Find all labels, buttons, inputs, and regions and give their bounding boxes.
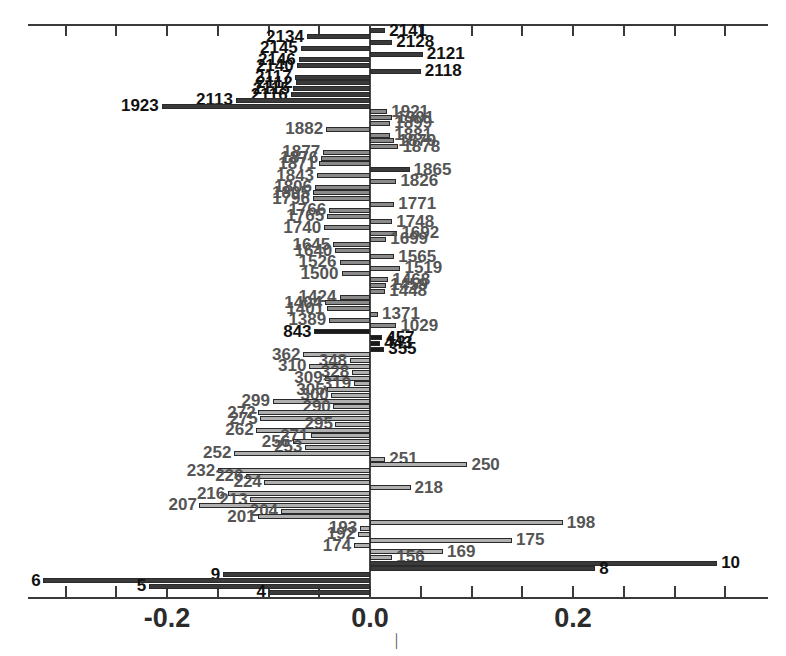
bar <box>223 572 370 577</box>
bar-value-label: 224 <box>233 473 261 490</box>
bar-value-label: 175 <box>516 531 544 548</box>
bar-value-label: 5 <box>137 577 146 594</box>
axis-tick-bottom <box>724 586 726 597</box>
bar <box>335 248 370 253</box>
bar <box>327 387 370 392</box>
bar <box>291 92 370 97</box>
bar <box>358 532 370 537</box>
bar <box>370 121 390 126</box>
bar <box>370 237 386 242</box>
bar-value-label: 10 <box>721 554 740 571</box>
bar <box>370 277 388 282</box>
bar <box>370 538 512 543</box>
bar-value-label: 1882 <box>285 120 323 137</box>
bar <box>370 254 394 259</box>
bar-value-label: 6 <box>31 572 40 589</box>
bar <box>370 144 398 149</box>
bar <box>370 115 392 120</box>
bar <box>370 462 467 467</box>
bar <box>354 543 370 548</box>
bar-value-label: 1740 <box>283 219 321 236</box>
bar <box>370 566 595 571</box>
bar <box>370 40 392 45</box>
bar-value-label: 169 <box>447 543 475 560</box>
bar-value-label: 262 <box>225 421 253 438</box>
axis-tick-top <box>572 26 574 36</box>
bar <box>162 104 370 109</box>
bar <box>327 306 370 311</box>
axis-tick-bottom <box>471 586 473 597</box>
bar-value-label: 198 <box>567 514 595 531</box>
bar-chart: -0.20.00.2214121342128214521212146214021… <box>0 0 786 656</box>
bar <box>246 474 370 479</box>
bar <box>331 393 370 398</box>
bar-value-label: 207 <box>168 496 196 513</box>
bar <box>370 289 385 294</box>
axis-tick-top <box>166 26 168 36</box>
bar <box>293 86 370 91</box>
bar <box>342 271 370 276</box>
bar-value-label: 252 <box>203 444 231 461</box>
axis-caret-mark: │ <box>393 633 401 648</box>
bar <box>305 445 370 450</box>
bar <box>370 312 378 317</box>
bar <box>354 381 370 386</box>
bar-value-label: 2121 <box>427 45 465 62</box>
bar <box>234 451 370 456</box>
axis-tick-top <box>115 26 117 36</box>
bar <box>370 133 390 138</box>
bar <box>324 225 370 230</box>
axis-tick-top <box>65 26 67 36</box>
bar <box>325 300 370 305</box>
axis-line-bottom <box>28 597 768 599</box>
bar <box>333 404 370 409</box>
bar-value-label: 218 <box>415 479 443 496</box>
bar <box>295 75 370 80</box>
bar <box>370 138 394 143</box>
bar <box>264 480 370 485</box>
bar-value-label: 250 <box>471 456 499 473</box>
bar <box>297 63 370 68</box>
bar-value-label: 355 <box>388 340 416 357</box>
axis-tick-bottom <box>623 586 625 597</box>
bar <box>313 190 370 195</box>
bar-value-label: 1699 <box>390 230 428 247</box>
bar <box>236 98 370 103</box>
bar <box>370 555 392 560</box>
bar-value-label: 1500 <box>301 265 339 282</box>
bar <box>321 156 370 161</box>
bar-value-label: 843 <box>283 323 311 340</box>
axis-tick-bottom <box>521 586 523 597</box>
bar <box>326 127 370 132</box>
bar <box>335 422 370 427</box>
bar <box>323 150 370 155</box>
bar <box>370 341 380 346</box>
bar <box>228 491 370 496</box>
axis-tick-bottom <box>115 586 117 597</box>
bar <box>43 578 370 583</box>
bar <box>350 358 370 363</box>
bar <box>370 202 394 207</box>
bar <box>370 347 384 352</box>
bar-value-label: 1923 <box>121 97 159 114</box>
axis-tick-label: -0.2 <box>144 603 191 634</box>
bar <box>329 208 370 213</box>
axis-tick-label: 0.0 <box>351 603 389 634</box>
axis-tick-top <box>674 26 676 36</box>
bar <box>319 161 370 166</box>
axis-tick-top <box>521 26 523 36</box>
bar <box>199 503 370 508</box>
axis-tick-bottom <box>65 586 67 597</box>
bar-value-label: 232 <box>187 462 215 479</box>
axis-tick-label: 0.2 <box>554 603 592 634</box>
bar-value-label: 2118 <box>425 62 462 79</box>
bar <box>311 433 370 438</box>
axis-tick-bottom <box>420 586 422 597</box>
bar-value-label: 8 <box>599 560 608 577</box>
bar <box>329 318 370 323</box>
bar <box>370 520 563 525</box>
bar <box>340 295 370 300</box>
bar <box>314 329 370 334</box>
bar <box>370 28 385 33</box>
bar <box>370 219 392 224</box>
